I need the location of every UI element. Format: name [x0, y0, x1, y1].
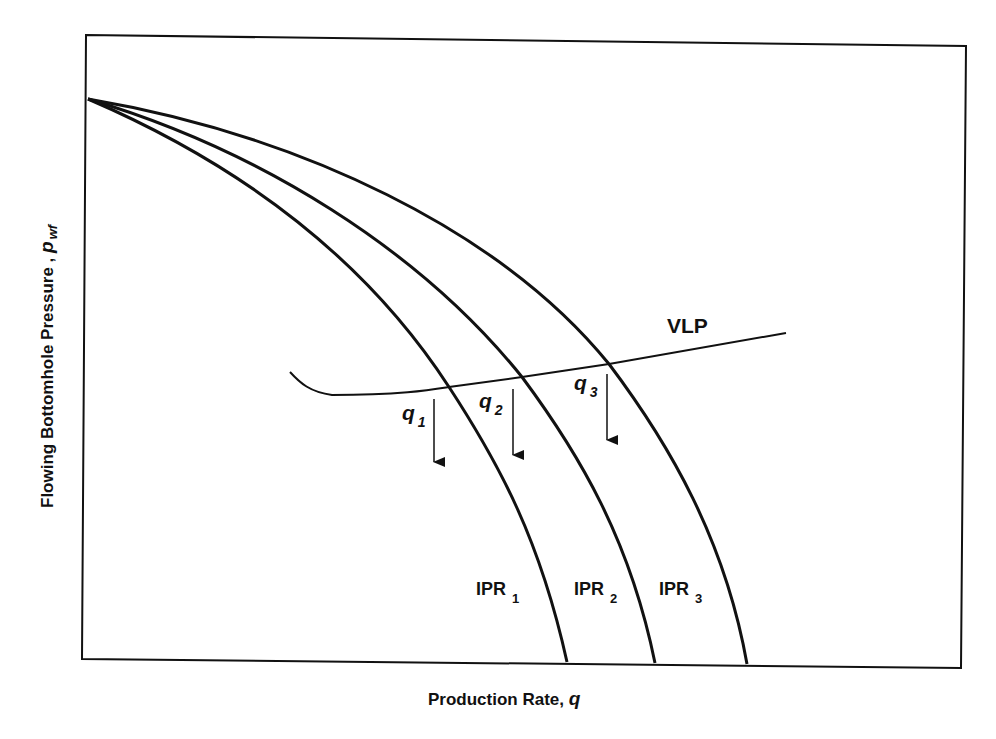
- vlp-label: VLP: [667, 314, 708, 337]
- q3-label: q3: [574, 371, 598, 400]
- ipr-1-label: IPR1: [476, 579, 519, 606]
- ipr-2-curve: [88, 99, 655, 663]
- ipr-2-label: IPR2: [574, 579, 617, 606]
- plot-frame: [82, 35, 966, 668]
- y-axis-label: Flowing Bottomhole Pressure , pwf: [36, 223, 60, 508]
- ipr-3-curve: [88, 99, 747, 664]
- q1-label: q1: [402, 401, 426, 430]
- ipr-vlp-diagram: q1 q2 q3 VLP IPR1 IPR2 IPR3 Production R…: [0, 0, 996, 739]
- ipr-3-label: IPR3: [659, 579, 702, 606]
- vlp-curve: [290, 333, 786, 395]
- q2-label: q2: [479, 389, 503, 418]
- x-axis-label: Production Rate, q: [428, 688, 581, 709]
